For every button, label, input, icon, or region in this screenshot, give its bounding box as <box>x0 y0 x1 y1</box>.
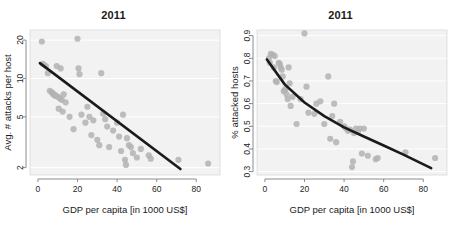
chart-panel-right: 2011 0204060800.30.40.50.60.70.80.9GDP p… <box>227 0 454 225</box>
data-point <box>76 71 82 77</box>
x-axis-tick-label: 40 <box>339 184 349 194</box>
data-point <box>110 128 116 134</box>
data-point <box>138 146 144 152</box>
y-axis-tick-label: 0.3 <box>242 165 252 177</box>
y-axis-title: % attacked hosts <box>229 66 240 139</box>
x-axis-tick-label: 20 <box>73 184 83 194</box>
y-axis-tick-label: 0.6 <box>242 97 252 109</box>
y-axis-tick-label: 20 <box>15 35 25 45</box>
x-axis-tick-label: 20 <box>300 184 310 194</box>
x-axis-tick-label: 60 <box>379 184 389 194</box>
data-point <box>148 156 154 162</box>
plot-area-background <box>257 30 447 175</box>
y-axis-title: Avg. # attacks per host <box>2 54 13 151</box>
x-axis-tick-label: 0 <box>263 184 268 194</box>
x-axis: 020406080 <box>263 179 429 194</box>
data-point <box>58 65 64 71</box>
data-point <box>60 108 66 114</box>
data-point <box>75 65 81 71</box>
data-point <box>327 136 333 142</box>
data-point <box>361 125 367 131</box>
data-point <box>134 154 140 160</box>
data-point <box>61 91 67 97</box>
data-point <box>359 150 365 156</box>
y-axis-tick-label: 0.7 <box>242 75 252 87</box>
data-point <box>70 126 76 132</box>
x-axis-tick-label: 80 <box>192 184 202 194</box>
y-axis-tick-label: 0.5 <box>242 120 252 132</box>
data-point <box>74 36 80 42</box>
data-point <box>88 132 94 138</box>
data-point <box>317 98 323 104</box>
data-point <box>279 67 285 73</box>
data-point <box>102 116 108 122</box>
y-axis-tick-label: 0.9 <box>242 29 252 41</box>
x-axis-tick-label: 0 <box>36 184 41 194</box>
data-point <box>321 121 327 127</box>
data-point <box>331 101 337 107</box>
data-point <box>301 30 307 36</box>
data-point <box>305 110 311 116</box>
y-axis: 0.30.40.50.60.70.80.9 <box>242 29 253 177</box>
y-axis-tick-label: 5 <box>15 114 25 119</box>
data-point <box>96 142 102 148</box>
data-point <box>333 139 339 145</box>
data-point <box>82 120 88 126</box>
y-axis: 251020 <box>15 35 26 170</box>
data-point <box>98 70 104 76</box>
data-point <box>350 158 356 164</box>
x-axis-title: GDP per capita [in 1000 US$] <box>290 204 415 215</box>
scatter-plot-percent-attacked-hosts: 0204060800.30.40.50.60.70.80.9GDP per ca… <box>227 0 454 225</box>
data-point <box>375 155 381 161</box>
data-point <box>63 99 69 105</box>
data-point <box>124 135 130 141</box>
data-point <box>116 134 122 140</box>
x-axis-tick-label: 80 <box>419 184 429 194</box>
x-axis-tick-label: 40 <box>112 184 122 194</box>
y-axis-tick-label: 0.4 <box>242 143 252 155</box>
scatter-plot-attacks-per-host: 020406080251020GDP per capita [in 1000 U… <box>0 0 227 225</box>
data-point <box>175 157 181 163</box>
x-axis-tick-label: 60 <box>152 184 162 194</box>
data-point <box>288 103 294 109</box>
chart-panel-left: 2011 020406080251020GDP per capita [in 1… <box>0 0 227 225</box>
data-point <box>205 161 211 167</box>
data-point <box>106 144 112 150</box>
data-point <box>78 112 84 118</box>
data-point <box>272 53 278 59</box>
y-axis-tick-label: 2 <box>15 165 25 170</box>
data-point <box>303 84 309 90</box>
data-point <box>293 121 299 127</box>
plot-area-background <box>30 30 220 175</box>
data-point <box>118 148 124 154</box>
data-point <box>39 38 45 44</box>
data-point <box>349 164 355 170</box>
data-point <box>432 155 438 161</box>
data-point <box>365 153 371 159</box>
x-axis-title: GDP per capita [in 1000 US$] <box>63 204 188 215</box>
figure-root: 2011 020406080251020GDP per capita [in 1… <box>0 0 454 225</box>
data-point <box>104 123 110 129</box>
data-point <box>90 117 96 123</box>
data-point <box>66 114 72 120</box>
data-point <box>325 73 331 79</box>
x-axis: 020406080 <box>36 179 202 194</box>
y-axis-tick-label: 0.8 <box>242 52 252 64</box>
y-axis-tick-label: 10 <box>15 73 25 83</box>
data-point <box>274 79 280 85</box>
data-point <box>94 137 100 143</box>
data-point <box>84 104 90 110</box>
data-point <box>286 64 292 70</box>
data-point <box>123 162 129 168</box>
data-point <box>120 112 126 118</box>
data-point <box>128 144 134 150</box>
